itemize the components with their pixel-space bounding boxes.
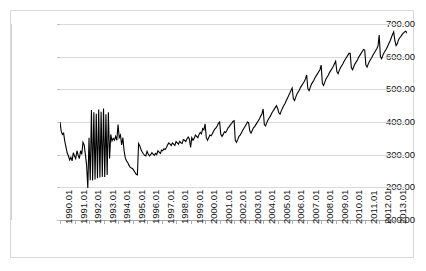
x-tick-label: 2000.01: [209, 190, 219, 224]
x-tick-label: 2007.01: [311, 190, 321, 224]
x-tick-label: 1992.01: [93, 190, 103, 224]
x-tick-label: 2009.01: [340, 190, 350, 224]
x-tick-label: 1994.01: [122, 190, 132, 224]
x-tick-label: 2002.01: [238, 190, 248, 224]
x-tick-mark: [307, 221, 308, 224]
x-tick-label: 2006.01: [296, 190, 306, 224]
x-tick-mark: [176, 221, 177, 224]
x-tick-label: 1999.01: [195, 190, 205, 224]
x-tick-label: 2010.01: [354, 190, 364, 224]
x-tick-label: 1993.01: [108, 190, 118, 224]
x-tick-label: 1995.01: [137, 190, 147, 224]
x-tick-mark: [336, 221, 337, 224]
x-tick-mark: [263, 221, 264, 224]
x-tick-mark: [118, 221, 119, 224]
x-tick-label: 2011.01: [369, 190, 379, 224]
x-tick-mark: [75, 221, 76, 224]
x-tick-label: 2012.01: [383, 190, 393, 224]
x-tick-label: 1996.01: [151, 190, 161, 224]
x-tick-label: 2008.01: [325, 190, 335, 224]
x-tick-label: 2004.01: [267, 190, 277, 224]
x-tick-mark: [60, 221, 61, 224]
x-tick-mark: [89, 221, 90, 224]
x-tick-mark: [220, 221, 221, 224]
x-tick-mark: [249, 221, 250, 224]
x-tick-mark: [234, 221, 235, 224]
x-tick-mark: [321, 221, 322, 224]
x-tick-mark: [350, 221, 351, 224]
x-tick-mark: [278, 221, 279, 224]
x-tick-label: 1998.01: [180, 190, 190, 224]
x-tick-mark: [379, 221, 380, 224]
x-tick-label: 1990.01: [64, 190, 74, 224]
plot-wrapper: 700.00600.00500.00400.00300.00200.00100.…: [11, 11, 415, 259]
x-tick-mark: [292, 221, 293, 224]
x-tick-mark: [162, 221, 163, 224]
x-tick-label: 1997.01: [166, 190, 176, 224]
x-tick-mark: [147, 221, 148, 224]
x-tick-mark: [191, 221, 192, 224]
x-tick-label: 2005.01: [282, 190, 292, 224]
y-axis-line: [11, 24, 12, 220]
chart-figure: 700.00600.00500.00400.00300.00200.00100.…: [10, 10, 414, 258]
x-tick-label: 2003.01: [253, 190, 263, 224]
x-tick-mark: [133, 221, 134, 224]
x-tick-mark: [394, 221, 395, 224]
x-tick-label: 1991.01: [79, 190, 89, 224]
series-1-line: [60, 31, 407, 188]
x-tick-label: 2001.01: [224, 190, 234, 224]
x-tick-label: 2013.01: [398, 190, 408, 224]
x-tick-mark: [205, 221, 206, 224]
x-tick-mark: [365, 221, 366, 224]
x-tick-mark: [104, 221, 105, 224]
